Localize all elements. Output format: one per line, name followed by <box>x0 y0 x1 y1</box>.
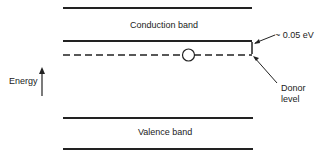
conduction-band-label: Conduction band <box>130 20 198 30</box>
energy-label: Energy <box>9 76 38 86</box>
valence-band-label: Valence band <box>138 127 192 137</box>
donor-label: Donor level <box>281 83 306 105</box>
donor-arrow-icon <box>254 57 277 83</box>
donor-electron-circle <box>183 49 195 61</box>
gap-label: ~ 0.05 eV <box>275 30 314 40</box>
